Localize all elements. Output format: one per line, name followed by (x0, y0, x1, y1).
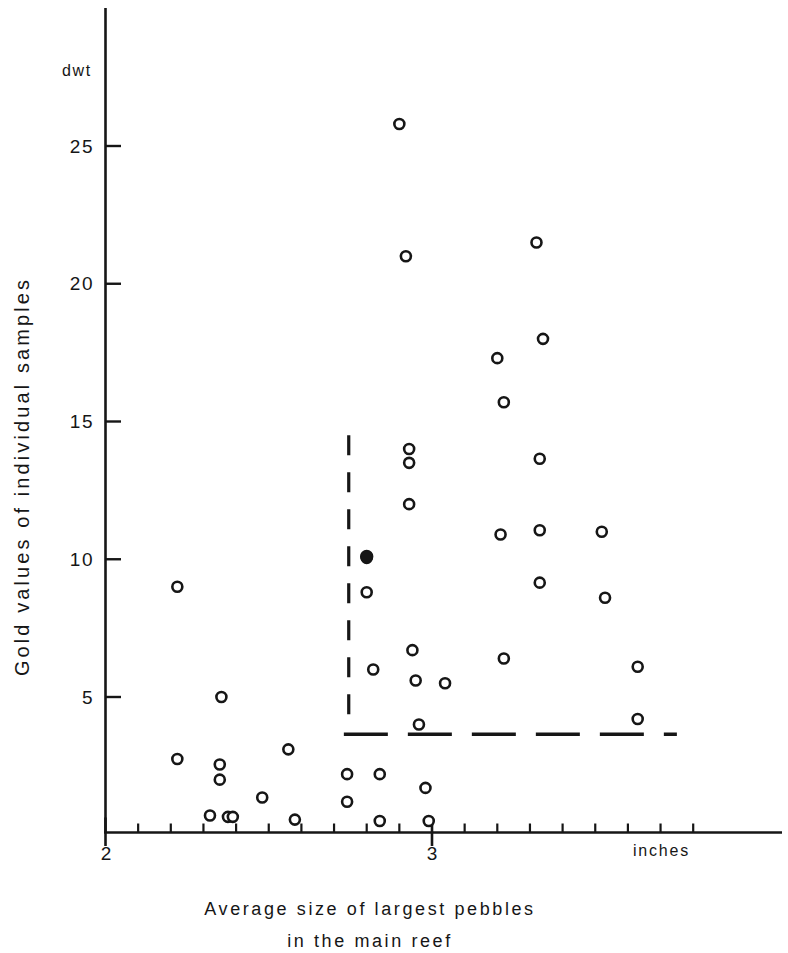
data-point (597, 527, 607, 537)
data-point (228, 812, 238, 822)
data-point (531, 237, 541, 247)
data-point (538, 334, 548, 344)
data-point (499, 397, 509, 407)
data-point (499, 653, 509, 663)
data-point (361, 550, 373, 562)
data-point (215, 775, 225, 785)
data-point (257, 793, 267, 803)
y-axis-ticks (106, 146, 122, 697)
data-point (535, 525, 545, 535)
data-point (535, 578, 545, 588)
data-point (375, 816, 385, 826)
data-point (290, 815, 300, 825)
data-point (401, 251, 411, 261)
data-point (404, 444, 414, 454)
data-point (375, 769, 385, 779)
data-point (411, 675, 421, 685)
data-point (362, 587, 372, 597)
data-point (404, 499, 414, 509)
data-point (172, 754, 182, 764)
data-point (492, 353, 502, 363)
data-point (420, 783, 430, 793)
scatter-plot-figure: Gold values of individual samples dwt in… (0, 0, 788, 953)
data-point (216, 692, 226, 702)
data-point (404, 458, 414, 468)
data-point (368, 664, 378, 674)
data-point (205, 810, 215, 820)
data-point (414, 720, 424, 730)
axes (104, 8, 782, 833)
data-point (215, 759, 225, 769)
data-point (407, 645, 417, 655)
data-point (283, 744, 293, 754)
data-point (440, 678, 450, 688)
data-point (172, 582, 182, 592)
data-point (600, 593, 610, 603)
data-points-layer (172, 119, 642, 826)
annotation-layer (344, 435, 677, 734)
plot-canvas (0, 0, 788, 953)
data-point (535, 454, 545, 464)
data-point (633, 714, 643, 724)
data-point (342, 769, 352, 779)
data-point (633, 662, 643, 672)
data-point (342, 797, 352, 807)
data-point (424, 816, 434, 826)
data-point (496, 529, 506, 539)
data-point (394, 119, 404, 129)
